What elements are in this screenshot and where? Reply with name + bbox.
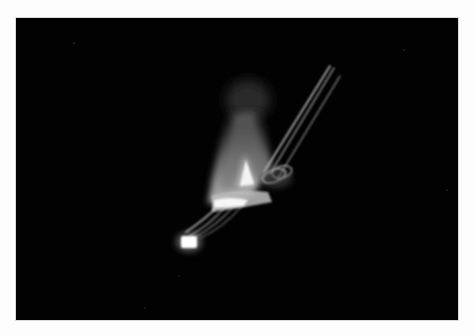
photo-frame xyxy=(16,18,458,320)
light-trail-scene xyxy=(16,18,458,320)
diagonal-streaks xyxy=(264,66,340,178)
